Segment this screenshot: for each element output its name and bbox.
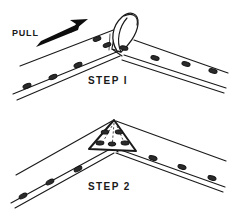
step2-right-arm-lower-edge [115, 148, 225, 187]
rivet [73, 61, 82, 68]
step2-rivet-group-left [18, 165, 82, 200]
rivet [121, 141, 129, 146]
rivet [207, 175, 216, 182]
step-1-caption: STEP I [88, 75, 128, 86]
rivet [150, 55, 159, 61]
rivet [22, 82, 31, 89]
rivet [93, 36, 102, 42]
rivet [108, 142, 116, 146]
rivet [45, 178, 54, 186]
rivet [177, 164, 186, 171]
step1-rivet-group-left-upper [93, 36, 112, 48]
rivet [48, 73, 57, 80]
pull-label: PULL [12, 28, 39, 38]
rivet [181, 61, 190, 67]
pull-arrow-head [70, 19, 88, 33]
illustration-canvas: PULL STEP I [0, 0, 235, 213]
rivet [96, 141, 104, 146]
rivet [103, 42, 112, 48]
pull-arrow-shaft [36, 23, 80, 47]
rivet [115, 129, 123, 134]
step1-right-arm-band-edge [122, 60, 224, 93]
technical-illustration-figure: PULL STEP I [0, 0, 235, 213]
step-1-panel: PULL STEP I [12, 13, 228, 100]
step2-right-arm-upper-edge [116, 121, 226, 161]
step2-right-arm-band-edge [116, 153, 223, 192]
step2-gusset-rivet-group-lower [96, 141, 129, 146]
step-2-caption: STEP 2 [88, 181, 131, 192]
step-2-panel: STEP 2 [11, 120, 226, 208]
step1-fold-guide-line [109, 34, 110, 50]
rivet [18, 192, 27, 200]
rivet [101, 129, 109, 134]
